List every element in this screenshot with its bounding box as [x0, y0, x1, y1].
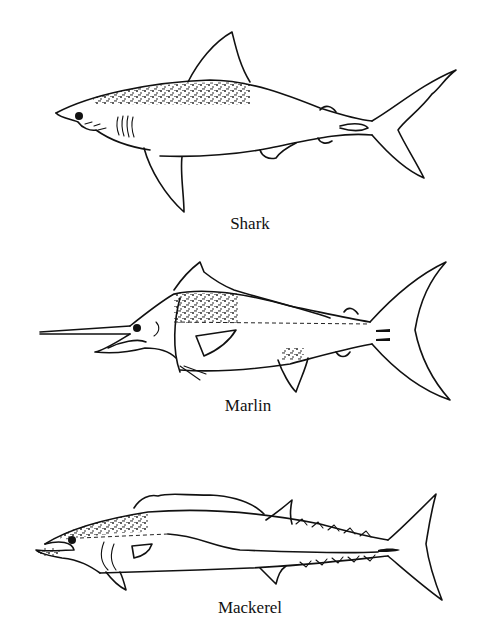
fish-comparison-figure: Shark	[0, 0, 478, 633]
shark-eye-icon	[75, 112, 83, 120]
marlin-illustration: Marlin	[0, 240, 478, 420]
shark-label: Shark	[180, 214, 320, 234]
mackerel-label: Mackerel	[180, 598, 320, 618]
mackerel-eye-icon	[68, 536, 76, 544]
marlin-eye-icon	[133, 324, 141, 332]
marlin-label: Marlin	[178, 396, 318, 416]
mackerel-illustration: Mackerel	[0, 480, 478, 633]
shark-illustration: Shark	[0, 0, 478, 240]
